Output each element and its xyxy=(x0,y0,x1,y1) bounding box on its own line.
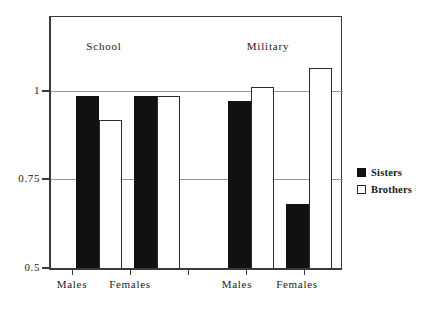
legend-swatch-sisters-icon xyxy=(357,168,366,177)
legend-item-brothers: Brothers xyxy=(357,182,433,197)
x-label-school-males: Males xyxy=(57,278,87,290)
legend-swatch-brothers-icon xyxy=(357,185,366,194)
x-label-military-males: Males xyxy=(222,278,252,290)
legend-label-brothers: Brothers xyxy=(371,184,412,195)
bar-military-males-brothers xyxy=(251,87,274,269)
y-tick-label-1: 1 xyxy=(34,85,40,96)
y-axis xyxy=(49,16,51,269)
x-tick-4 xyxy=(304,269,305,275)
bar-military-females-brothers xyxy=(309,68,332,269)
y-tick-0-75 xyxy=(42,178,49,180)
group-label-military: Military xyxy=(247,40,289,52)
group-label-school: School xyxy=(86,40,121,52)
bar-chart: 1 0.75 0.5 Males Females Males Females S… xyxy=(0,0,433,309)
x-label-school-females: Females xyxy=(109,278,151,290)
bar-school-males-sisters xyxy=(76,96,99,269)
bar-military-females-sisters xyxy=(286,204,309,269)
y-tick-label-0-5: 0.5 xyxy=(24,262,40,273)
x-tick-3 xyxy=(246,269,247,275)
x-tick-0 xyxy=(72,269,73,275)
plot-area xyxy=(49,16,342,269)
gridline-1 xyxy=(50,91,343,92)
y-tick-label-0-75: 0.75 xyxy=(18,173,40,184)
y-tick-1 xyxy=(42,90,49,92)
bar-school-females-sisters xyxy=(134,96,157,269)
x-tick-2 xyxy=(188,269,189,275)
x-label-military-females: Females xyxy=(276,278,318,290)
x-tick-1 xyxy=(130,269,131,275)
legend-label-sisters: Sisters xyxy=(371,167,402,178)
bar-school-females-brothers xyxy=(157,96,180,269)
y-tick-0-5 xyxy=(42,267,49,269)
legend: Sisters Brothers xyxy=(357,165,433,199)
x-axis xyxy=(49,268,342,270)
bar-school-males-brothers xyxy=(99,120,122,269)
legend-item-sisters: Sisters xyxy=(357,165,433,180)
bar-military-males-sisters xyxy=(228,101,251,269)
